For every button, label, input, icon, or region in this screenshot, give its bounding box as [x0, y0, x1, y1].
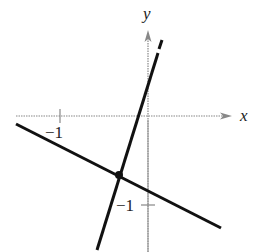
y-axis-arrow-icon: [145, 30, 152, 42]
y-tick-label: −1: [116, 196, 134, 215]
steep-line: [97, 53, 158, 250]
x-axis-label: x: [239, 106, 248, 125]
intersection-point: [115, 171, 123, 179]
x-tick-label: −1: [45, 123, 63, 142]
graph-canvas: x y −1 −1: [0, 0, 255, 252]
y-axis-label: y: [141, 4, 151, 23]
